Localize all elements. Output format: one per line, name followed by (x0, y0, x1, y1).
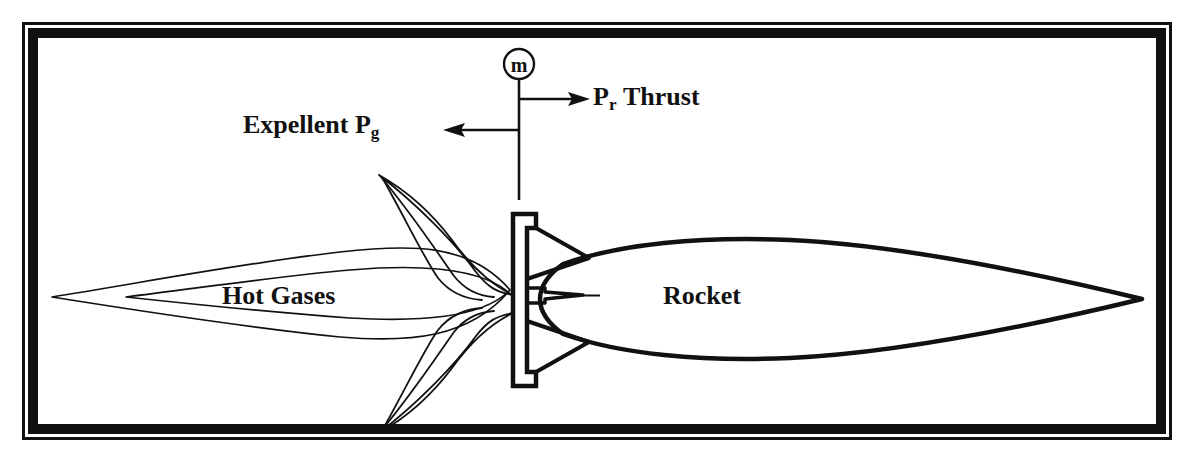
thrust-label-subscript: r (609, 95, 617, 114)
rocket-body (540, 239, 1142, 359)
flame-streak-upper-inner (381, 177, 494, 297)
rocket-body-outline (540, 239, 1142, 359)
nozzle-throat (527, 288, 583, 303)
fin-upper (527, 228, 589, 279)
nozzle-plate (513, 214, 600, 386)
thrust-arrow (519, 92, 590, 106)
mass-flow-rate-symbol: m (505, 51, 533, 79)
rocket-thrust-diagram: m Expellent Pg Pr Thrust Hot Gases Rocke… (0, 0, 1193, 462)
thrust-pressure-label: Pr Thrust (593, 84, 700, 110)
flame-streaks-upper (379, 175, 513, 300)
hot-gases-label: Hot Gases (222, 283, 335, 309)
expellent-pressure-label: Expellent Pg (243, 112, 379, 138)
expellent-label-subscript: g (371, 123, 380, 142)
expellent-label-text: Expellent P (243, 110, 371, 139)
diagram-canvas (0, 0, 1193, 462)
bulkhead-plate-outline (513, 214, 536, 386)
thrust-label-word: Thrust (623, 82, 700, 111)
expellent-arrow (443, 123, 519, 137)
thrust-label-text: P (593, 82, 609, 111)
flame-streaks-lower (379, 308, 513, 433)
rocket-label: Rocket (663, 283, 741, 309)
flame-streak-upper-outer (379, 175, 513, 295)
flame-streak-lower-inner (381, 311, 494, 431)
